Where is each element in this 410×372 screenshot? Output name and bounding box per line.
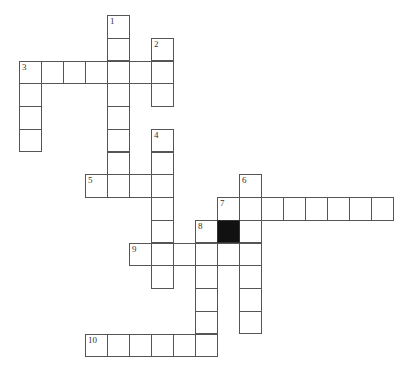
crossword-cell[interactable]: [195, 265, 218, 289]
clue-number: 8: [198, 221, 203, 231]
crossword-cell[interactable]: [19, 83, 42, 107]
crossword-cell[interactable]: [129, 334, 152, 358]
crossword-cell[interactable]: [239, 288, 262, 312]
crossword-cell[interactable]: [107, 152, 130, 176]
crossword-cell[interactable]: 3: [19, 61, 42, 85]
clue-number: 9: [132, 244, 137, 254]
crossword-cell[interactable]: [19, 129, 42, 153]
clue-number: 5: [88, 175, 93, 185]
crossword-cell[interactable]: [349, 197, 372, 221]
crossword-cell[interactable]: [107, 83, 130, 107]
crossword-cell[interactable]: [63, 61, 86, 85]
crossword-cell[interactable]: 6: [239, 174, 262, 198]
crossword-cell[interactable]: [151, 152, 174, 176]
crossword-cell[interactable]: [107, 106, 130, 130]
crossword-cell[interactable]: 1: [107, 15, 130, 39]
crossword-cell[interactable]: 9: [129, 243, 152, 267]
crossword-cell[interactable]: 5: [85, 174, 108, 198]
crossword-cell[interactable]: [239, 311, 262, 335]
crossword-cell[interactable]: [151, 334, 174, 358]
crossword-cell[interactable]: 7: [217, 197, 240, 221]
crossword-grid: 12345678910: [0, 0, 410, 372]
crossword-cell[interactable]: 4: [151, 129, 174, 153]
crossword-cell[interactable]: [173, 243, 196, 267]
crossword-cell[interactable]: [19, 106, 42, 130]
crossword-cell[interactable]: [85, 61, 108, 85]
clue-number: 10: [88, 335, 97, 345]
crossword-cell[interactable]: [151, 174, 174, 198]
crossword-cell[interactable]: [107, 129, 130, 153]
clue-number: 3: [22, 62, 27, 72]
crossword-cell[interactable]: [239, 243, 262, 267]
crossword-cell[interactable]: 10: [85, 334, 108, 358]
crossword-cell[interactable]: [41, 61, 64, 85]
crossword-cell[interactable]: [151, 220, 174, 244]
crossword-cell[interactable]: 2: [151, 38, 174, 62]
crossword-cell[interactable]: [239, 220, 262, 244]
crossword-cell[interactable]: [107, 61, 130, 85]
crossword-cell[interactable]: 8: [195, 220, 218, 244]
crossword-cell[interactable]: [371, 197, 394, 221]
black-cell: [217, 220, 240, 244]
crossword-cell[interactable]: [173, 334, 196, 358]
clue-number: 1: [110, 16, 115, 26]
clue-number: 4: [154, 130, 159, 140]
crossword-cell[interactable]: [129, 174, 152, 198]
clue-number: 6: [242, 175, 247, 185]
crossword-cell[interactable]: [195, 311, 218, 335]
crossword-cell[interactable]: [195, 243, 218, 267]
crossword-cell[interactable]: [195, 334, 218, 358]
crossword-cell[interactable]: [305, 197, 328, 221]
crossword-cell[interactable]: [151, 243, 174, 267]
crossword-cell[interactable]: [107, 38, 130, 62]
crossword-cell[interactable]: [195, 288, 218, 312]
clue-number: 2: [154, 39, 159, 49]
crossword-cell[interactable]: [129, 61, 152, 85]
crossword-cell[interactable]: [107, 174, 130, 198]
crossword-cell[interactable]: [107, 334, 130, 358]
crossword-cell[interactable]: [239, 265, 262, 289]
crossword-cell[interactable]: [327, 197, 350, 221]
clue-number: 7: [220, 198, 225, 208]
crossword-cell[interactable]: [283, 197, 306, 221]
crossword-cell[interactable]: [151, 61, 174, 85]
crossword-cell[interactable]: [151, 265, 174, 289]
crossword-cell[interactable]: [151, 83, 174, 107]
crossword-cell[interactable]: [151, 197, 174, 221]
crossword-cell[interactable]: [239, 197, 262, 221]
crossword-cell[interactable]: [261, 197, 284, 221]
crossword-cell[interactable]: [217, 243, 240, 267]
